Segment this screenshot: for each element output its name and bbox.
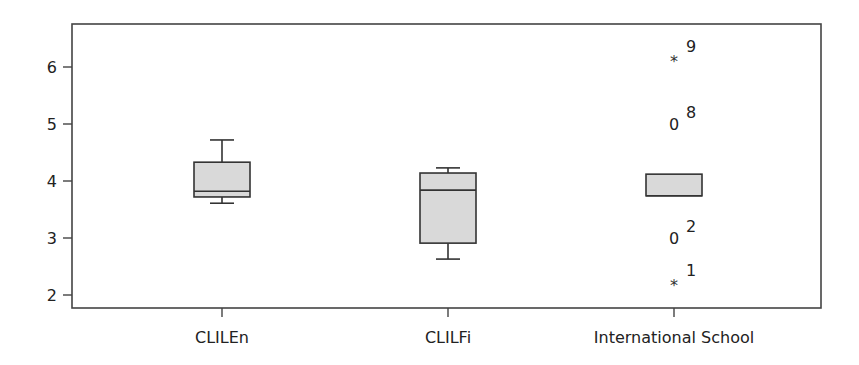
x-category-label: CLILEn xyxy=(195,328,249,347)
box-plot-chart: 23456 CLILEnCLILFiInternational School *… xyxy=(0,0,859,365)
y-tick-label: 3 xyxy=(47,229,57,248)
y-tick-label: 4 xyxy=(47,172,57,191)
x-axis: CLILEnCLILFiInternational School xyxy=(195,308,754,347)
iqr-box xyxy=(646,174,702,196)
x-category-label: CLILFi xyxy=(425,328,471,347)
y-tick-label: 5 xyxy=(47,115,57,134)
outlier-label: 1 xyxy=(686,261,696,280)
plot-frame xyxy=(72,24,821,308)
iqr-box xyxy=(420,173,476,243)
plot-area xyxy=(72,24,821,308)
outlier-label: 8 xyxy=(686,103,696,122)
outlier-marker: 0 xyxy=(669,229,679,248)
y-axis: 23456 xyxy=(47,58,72,305)
y-tick-label: 6 xyxy=(47,58,57,77)
outlier-label: 2 xyxy=(686,217,696,236)
y-tick-label: 2 xyxy=(47,286,57,305)
outlier-marker: 0 xyxy=(669,115,679,134)
x-category-label: International School xyxy=(594,328,754,347)
extreme-outlier-marker: * xyxy=(670,276,678,295)
outlier-label: 9 xyxy=(686,37,696,56)
extreme-outlier-marker: * xyxy=(670,52,678,71)
